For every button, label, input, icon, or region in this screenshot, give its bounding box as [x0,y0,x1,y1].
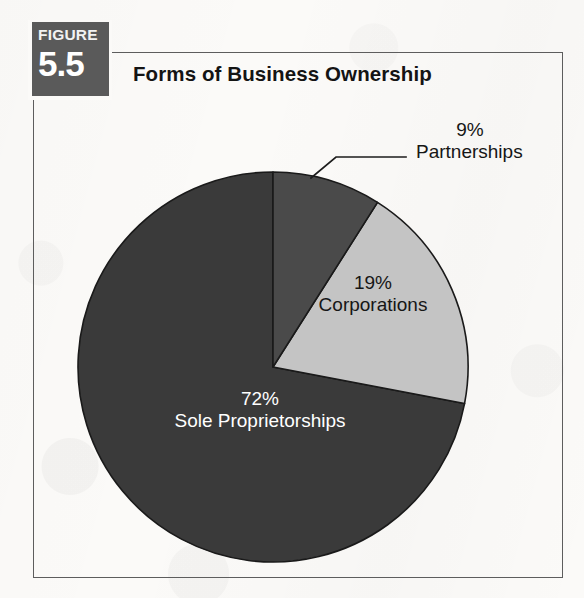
label-sole-proprietorships: 72% Sole Proprietorships [152,388,368,432]
label-corporations-percent: 19% [313,272,433,294]
partnerships-leader-line [311,157,406,178]
pie-chart-graphic [0,0,584,598]
label-corporations-name: Corporations [313,294,433,316]
label-sole-proprietorships-name: Sole Proprietorships [152,410,368,432]
label-corporations: 19% Corporations [313,272,433,316]
label-partnerships-name: Partnerships [416,141,528,163]
label-sole-proprietorships-percent: 72% [152,388,368,410]
label-partnerships-percent: 9% [412,119,528,141]
figure-container: FIGURE 5.5 Forms of Business Ownership 9… [0,0,584,598]
label-partnerships: 9% Partnerships [416,119,528,163]
